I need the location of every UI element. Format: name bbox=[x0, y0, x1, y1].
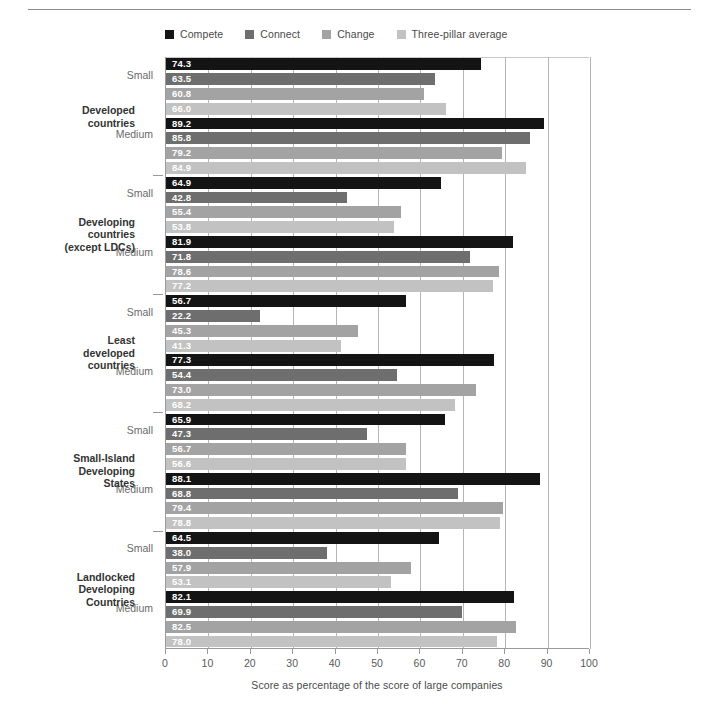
bar-value-label: 69.9 bbox=[172, 607, 191, 617]
y-axis-group-tick bbox=[153, 531, 163, 532]
y-axis-size-label-medium: Medium bbox=[116, 128, 153, 140]
bar-connect[interactable] bbox=[166, 192, 347, 204]
bar-value-label: 55.4 bbox=[172, 208, 191, 218]
x-axis-tick-label: 40 bbox=[329, 657, 341, 669]
bar-connect[interactable] bbox=[166, 488, 458, 500]
legend-label: Change bbox=[337, 28, 374, 40]
bar-group: 64.942.855.453.881.971.878.677.2 bbox=[166, 175, 589, 293]
bar-value-label: 78.0 bbox=[172, 637, 191, 647]
bar-row: 38.0 bbox=[166, 547, 589, 559]
bar-value-label: 88.1 bbox=[172, 474, 191, 484]
bar-three-pillar-average[interactable] bbox=[166, 458, 406, 470]
bar-connect[interactable] bbox=[166, 251, 470, 263]
bar-value-label: 63.5 bbox=[172, 74, 191, 84]
bar-connect[interactable] bbox=[166, 369, 397, 381]
bar-three-pillar-average[interactable] bbox=[166, 636, 497, 648]
x-axis-tick-label: 90 bbox=[541, 657, 553, 669]
bar-row: 71.8 bbox=[166, 251, 589, 263]
bar-row: 42.8 bbox=[166, 192, 589, 204]
bar-connect[interactable] bbox=[166, 606, 462, 618]
legend-item-three-pillar-average[interactable]: Three-pillar average bbox=[397, 28, 508, 40]
bar-change[interactable] bbox=[166, 266, 499, 278]
bar-connect[interactable] bbox=[166, 132, 530, 144]
legend-item-change[interactable]: Change bbox=[322, 28, 374, 40]
bar-compete[interactable] bbox=[166, 354, 494, 366]
bar-row: 84.9 bbox=[166, 162, 589, 174]
bar-value-label: 60.8 bbox=[172, 89, 191, 99]
bar-change[interactable] bbox=[166, 325, 358, 337]
bar-change[interactable] bbox=[166, 88, 424, 100]
y-axis-size-label-small: Small bbox=[127, 424, 153, 436]
bar-compete[interactable] bbox=[166, 177, 441, 189]
bar-value-label: 57.9 bbox=[172, 563, 191, 573]
bar-change[interactable] bbox=[166, 562, 411, 574]
category-label-line: Least bbox=[83, 334, 135, 347]
y-axis-size-label-small: Small bbox=[127, 187, 153, 199]
category-label-line: developed bbox=[83, 347, 135, 360]
bar-compete[interactable] bbox=[166, 414, 445, 426]
bar-change[interactable] bbox=[166, 147, 502, 159]
bar-value-label: 68.8 bbox=[172, 489, 191, 499]
x-axis-ticks bbox=[165, 649, 589, 655]
bar-compete[interactable] bbox=[166, 295, 406, 307]
x-axis-tick-label: 80 bbox=[498, 657, 510, 669]
bar-row: 78.6 bbox=[166, 266, 589, 278]
bar-row: 89.2 bbox=[166, 118, 589, 130]
bar-row: 22.2 bbox=[166, 310, 589, 322]
bar-three-pillar-average[interactable] bbox=[166, 103, 446, 115]
bar-group: 56.722.245.341.377.354.473.068.2 bbox=[166, 294, 589, 412]
bar-subgroup-medium: 88.168.879.478.8 bbox=[166, 471, 589, 530]
x-axis-tick bbox=[207, 649, 208, 654]
bar-value-label: 65.9 bbox=[172, 415, 191, 425]
bar-row: 68.8 bbox=[166, 488, 589, 500]
bar-three-pillar-average[interactable] bbox=[166, 340, 341, 352]
legend-swatch-icon bbox=[165, 30, 174, 39]
legend-item-connect[interactable]: Connect bbox=[245, 28, 300, 40]
bar-value-label: 64.5 bbox=[172, 533, 191, 543]
bar-three-pillar-average[interactable] bbox=[166, 517, 500, 529]
bar-change[interactable] bbox=[166, 502, 503, 514]
bar-compete[interactable] bbox=[166, 58, 481, 70]
x-axis-tick-label: 60 bbox=[414, 657, 426, 669]
y-axis-category-label: Small-IslandDevelopingStates bbox=[73, 453, 135, 491]
bar-group: 65.947.356.756.688.168.879.478.8 bbox=[166, 412, 589, 530]
bar-value-label: 42.8 bbox=[172, 193, 191, 203]
bar-compete[interactable] bbox=[166, 591, 514, 603]
category-label-line: Developing bbox=[77, 584, 135, 597]
bar-compete[interactable] bbox=[166, 473, 540, 485]
bar-row: 68.2 bbox=[166, 399, 589, 411]
bar-change[interactable] bbox=[166, 384, 476, 396]
bar-row: 63.5 bbox=[166, 73, 589, 85]
legend-label: Three-pillar average bbox=[412, 28, 508, 40]
bar-three-pillar-average[interactable] bbox=[166, 399, 455, 411]
bar-three-pillar-average[interactable] bbox=[166, 162, 526, 174]
bar-row: 74.3 bbox=[166, 58, 589, 70]
bar-value-label: 82.1 bbox=[172, 592, 191, 602]
bar-change[interactable] bbox=[166, 621, 516, 633]
legend-item-compete[interactable]: Compete bbox=[165, 28, 223, 40]
bar-row: 60.8 bbox=[166, 88, 589, 100]
y-axis-group-tick bbox=[153, 294, 163, 295]
x-axis-tick bbox=[165, 649, 166, 654]
bar-value-label: 53.1 bbox=[172, 578, 191, 588]
bar-compete[interactable] bbox=[166, 236, 513, 248]
bar-compete[interactable] bbox=[166, 532, 439, 544]
x-axis-tick bbox=[589, 649, 590, 654]
bar-connect[interactable] bbox=[166, 428, 367, 440]
bar-three-pillar-average[interactable] bbox=[166, 576, 391, 588]
bar-three-pillar-average[interactable] bbox=[166, 280, 493, 292]
bar-value-label: 22.2 bbox=[172, 311, 191, 321]
y-axis-size-label-small: Small bbox=[127, 542, 153, 554]
x-axis-tick-label: 50 bbox=[371, 657, 383, 669]
bar-value-label: 56.7 bbox=[172, 296, 191, 306]
bar-three-pillar-average[interactable] bbox=[166, 221, 394, 233]
bar-connect[interactable] bbox=[166, 73, 435, 85]
bar-change[interactable] bbox=[166, 206, 401, 218]
x-axis-tick-label: 0 bbox=[162, 657, 168, 669]
bar-compete[interactable] bbox=[166, 118, 544, 130]
bar-change[interactable] bbox=[166, 443, 406, 455]
bar-value-label: 78.6 bbox=[172, 267, 191, 277]
bar-subgroup-small: 64.942.855.453.8 bbox=[166, 175, 589, 234]
bar-row: 79.4 bbox=[166, 502, 589, 514]
category-label-line: States bbox=[73, 478, 135, 491]
